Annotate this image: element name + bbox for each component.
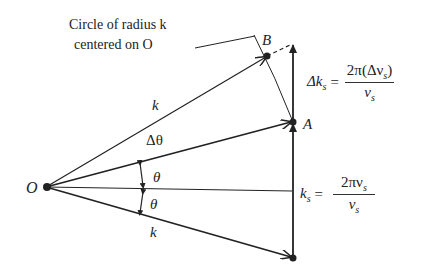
label-a: A [303,117,312,132]
label-b: B [262,33,271,48]
ks-equals: = [315,186,323,203]
label-k-upper: k [152,98,159,113]
delta-ks-numerator: 2π(Δν [347,62,384,78]
equation-delta-ks: Δks = 2π(Δνs) vs [307,62,394,103]
vector-k-to-b [46,57,266,187]
label-delta-theta: Δθ [146,133,163,148]
delta-ks-den-sub: s [371,92,375,103]
theta-upper-marker [140,163,143,186]
origin-point [43,183,51,191]
wave-vector-diagram [0,0,437,275]
delta-ks-lhs: Δk [307,73,322,89]
caption-leader-line [195,36,255,48]
label-k-lower: k [150,225,157,240]
point-bottom [290,255,297,262]
label-origin: O [26,180,38,196]
ks-numerator: 2πν [341,174,363,190]
caption-line-1: Circle of radius k [69,18,167,32]
delta-ks-num-close: ) [387,62,392,78]
point-b [264,53,271,60]
delta-ks-lhs-sub: s [322,81,326,92]
ks-lhs: k [300,185,307,201]
vector-k-lower [46,187,291,257]
label-theta-upper: θ [153,170,160,185]
theta-lower-marker [140,192,143,213]
equation-ks: ks = 2πνs vs [300,174,375,215]
delta-ks-denominator: v [364,84,371,100]
ks-lhs-sub: s [307,193,311,204]
ks-den-sub: s [355,204,359,215]
point-a [290,119,297,126]
vector-to-a [46,122,291,187]
delta-ks-equals: = [330,74,338,91]
ks-num-sub: s [363,182,367,193]
label-theta-lower: θ [150,197,157,212]
caption-line-2: centered on O [74,38,153,52]
horizontal-axis [46,187,292,191]
radius-k-arc [254,35,293,122]
